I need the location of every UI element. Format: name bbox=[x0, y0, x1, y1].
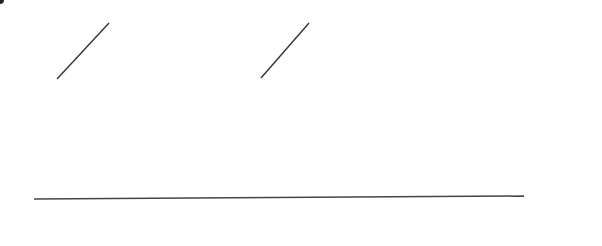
link-5-marker-dot bbox=[0, 0, 4, 4]
leader-line-link-5 bbox=[261, 23, 309, 78]
x-axis-line bbox=[34, 196, 524, 199]
leader-line-link-0 bbox=[57, 23, 109, 79]
spring-diagram bbox=[0, 0, 602, 246]
